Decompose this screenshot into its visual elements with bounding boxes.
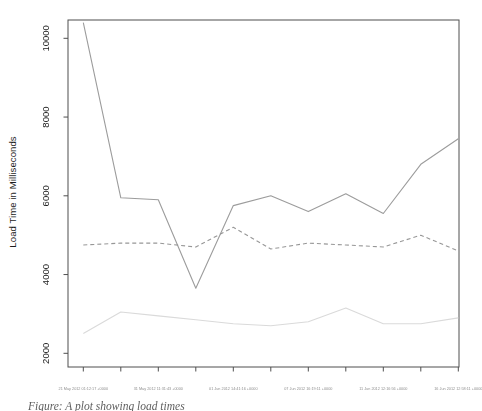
figure-caption: Figure: A plot showing load times (28, 400, 185, 411)
chart-canvas: 20004000600080001000021 May 2012 01:12:1… (0, 0, 482, 411)
x-tick-label: 01 Jun 2012 14:41:16 +0000 (209, 387, 257, 391)
figure-load-time-chart: 20004000600080001000021 May 2012 01:12:1… (0, 0, 482, 411)
y-tick-label: 10000 (41, 25, 52, 51)
y-tick-label: 6000 (41, 185, 52, 206)
x-tick-label: 21 May 2012 01:12:17 +0000 (59, 387, 109, 391)
x-tick-label: 16 Jun 2012 12:58:11 +0000 (434, 387, 482, 391)
plot-box (68, 20, 459, 367)
y-tick-label: 2000 (41, 343, 52, 364)
y-tick-label: 8000 (41, 106, 52, 127)
x-tick-label: 31 May 2012 11:31:43 +0000 (134, 387, 183, 391)
y-tick-label: 4000 (41, 264, 52, 285)
line-light-gray (83, 308, 458, 334)
line-dashed-gray (83, 227, 458, 251)
x-tick-label: 11 Jun 2012 12:16:56 +0000 (359, 387, 407, 391)
y-axis-title: Load Time in Milliseconds (7, 136, 18, 247)
x-tick-label: 07 Jun 2012 16:19:11 +0000 (284, 387, 332, 391)
